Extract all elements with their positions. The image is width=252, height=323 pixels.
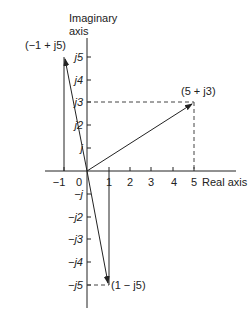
svg-text:j4: j4 (72, 74, 83, 86)
svg-text:0: 0 (76, 176, 82, 188)
svg-text:−j4: −j4 (68, 256, 83, 268)
point-label-5-plus-j3: (5 + j3) (181, 85, 216, 97)
svg-text:2: 2 (127, 176, 133, 188)
phasor-1-minus-j5 (87, 171, 108, 283)
svg-text:j5: j5 (72, 51, 83, 63)
svg-text:−j2: −j2 (68, 211, 83, 223)
real-axis-ticks (64, 167, 194, 171)
svg-text:5: 5 (191, 176, 197, 188)
complex-plane-diagram: −1 0 1 2 3 4 5 Real axis j j2 j3 j4 j5 −… (0, 0, 252, 323)
real-axis-label: Real axis (202, 176, 248, 188)
imag-axis-label-line2: axis (69, 25, 89, 37)
phasor-5-plus-j3 (87, 104, 192, 171)
svg-text:−j3: −j3 (68, 233, 84, 245)
svg-text:−1: −1 (53, 176, 66, 188)
point-label-1-minus-j5: (1 − j5) (111, 279, 146, 291)
svg-text:4: 4 (171, 176, 177, 188)
svg-text:−j5: −j5 (68, 279, 84, 291)
svg-text:−j: −j (74, 188, 83, 200)
point-label-minus1-plus-j5: (−1 + j5) (25, 39, 66, 51)
svg-text:3: 3 (148, 176, 154, 188)
imag-axis-label-line1: Imaginary (69, 12, 118, 24)
real-axis-tick-labels: −1 0 1 2 3 4 5 Real axis (53, 176, 248, 188)
